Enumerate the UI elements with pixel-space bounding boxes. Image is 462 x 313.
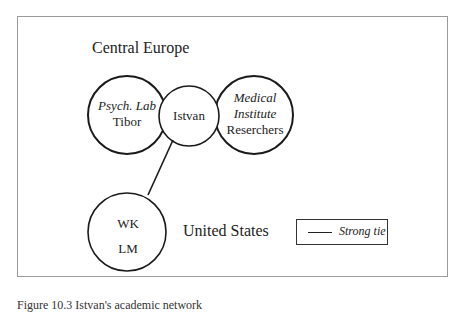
institute-label: Institute (226, 106, 283, 122)
legend-strong-tie-label: Strong tie (339, 224, 386, 239)
strong-tie-edge (148, 140, 173, 195)
us-contacts-node: WK LM (117, 211, 139, 261)
region-united-states: United States (183, 222, 269, 240)
medical-label: Medical (226, 90, 283, 106)
istvan-label: Istvan (173, 108, 205, 124)
psych-lab-node: Psych. Lab Tibor (98, 98, 156, 130)
lm-label: LM (117, 236, 139, 261)
medical-institute-node: Medical Institute Reserchers (226, 90, 283, 138)
tibor-label: Tibor (98, 114, 156, 130)
istvan-node: Istvan (173, 108, 205, 124)
strong-tie-line-icon (308, 232, 332, 233)
researchers-label: Reserchers (226, 122, 283, 138)
region-central-europe: Central Europe (92, 39, 189, 57)
psych-lab-label: Psych. Lab (98, 98, 156, 114)
figure-caption: Figure 10.3 Istvan's academic network (17, 298, 202, 313)
wk-label: WK (117, 211, 139, 236)
legend-box: Strong tie (296, 219, 388, 245)
